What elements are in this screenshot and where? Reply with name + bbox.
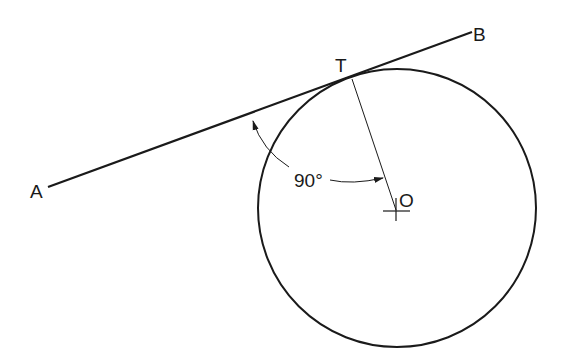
circle xyxy=(258,69,536,347)
label-point-b: B xyxy=(473,24,486,45)
radius-line-to xyxy=(352,79,396,210)
tangent-line-ab xyxy=(48,32,472,187)
tangent-diagram: A B T O 90° xyxy=(0,0,562,364)
label-center: O xyxy=(399,190,414,211)
label-point-a: A xyxy=(30,181,43,202)
label-angle: 90° xyxy=(294,170,323,191)
label-tangent-point: T xyxy=(335,55,347,76)
angle-arrow-to-radius xyxy=(330,178,383,182)
